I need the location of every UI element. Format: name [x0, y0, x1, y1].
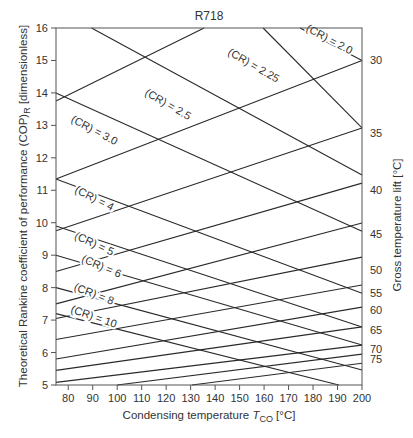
x-tick-label: 190	[328, 392, 346, 404]
y2-tick-label: 40	[370, 184, 382, 196]
y-tick-label: 12	[36, 152, 48, 164]
y-tick-label: 16	[36, 22, 48, 34]
x-tick-label: 100	[108, 392, 126, 404]
y-tick-label: 10	[36, 217, 48, 229]
x-tick-label: 120	[157, 392, 175, 404]
y2-axis: 30354045505560657075	[370, 54, 382, 365]
y2-tick-label: 75	[370, 353, 382, 365]
y2-tick-label: 55	[370, 287, 382, 299]
x-tick-label: 110	[133, 392, 151, 404]
compression-ratio-label: (CR) = 2.5	[143, 86, 193, 122]
y-axis: 5678910111213141516	[36, 22, 56, 391]
compression-ratio-label: (CR) = 2.0	[304, 22, 355, 57]
compression-ratio-label: (CR) = 6	[80, 252, 123, 279]
x-tick-label: 140	[206, 392, 224, 404]
chart: R718 (CR) = 2.0(CR) = 2.25(CR) = 2.5(CR)…	[0, 0, 413, 438]
y2-tick-label: 45	[370, 228, 382, 240]
compression-ratio-label: (CR) = 2.25	[226, 46, 282, 85]
x-tick-label: 80	[62, 392, 74, 404]
y2-axis-title: Gross temperature lift [°C]	[391, 158, 403, 291]
y2-tick-label: 65	[370, 324, 382, 336]
y-tick-label: 15	[36, 54, 48, 66]
y2-tick-label: 35	[370, 127, 382, 139]
x-axis-title: Condensing temperature TCO [°C]	[123, 409, 296, 424]
x-tick-label: 200	[353, 392, 371, 404]
y-tick-label: 14	[36, 87, 48, 99]
y-tick-label: 9	[42, 249, 48, 261]
compression-ratio-line	[56, 314, 339, 385]
y-tick-label: 8	[42, 282, 48, 294]
x-tick-label: 90	[87, 392, 99, 404]
x-tick-label: 170	[279, 392, 297, 404]
y-axis-title: Theoretical Rankine coefficient of perfo…	[17, 25, 32, 387]
y2-tick-label: 60	[370, 304, 382, 316]
plot-lines: (CR) = 2.0(CR) = 2.25(CR) = 2.5(CR) = 3.…	[56, 22, 362, 385]
chart-title: R718	[195, 9, 224, 23]
y-tick-label: 6	[42, 347, 48, 359]
compression-ratio-line	[91, 28, 362, 175]
compression-ratio-label: (CR) = 4	[73, 183, 116, 213]
y-tick-label: 7	[42, 314, 48, 326]
compression-ratio-line	[56, 93, 362, 231]
temperature-lift-line	[117, 354, 362, 385]
y2-tick-label: 50	[370, 264, 382, 276]
y-tick-label: 5	[42, 379, 48, 391]
x-tick-label: 160	[255, 392, 273, 404]
x-axis: 8090100110120130140150160170180190200	[62, 385, 371, 404]
y-tick-label: 11	[37, 184, 48, 196]
temperature-lift-line	[192, 363, 362, 385]
compression-ratio-label: (CR) = 8	[72, 281, 115, 307]
temperature-lift-line	[56, 128, 362, 231]
temperature-lift-line	[56, 28, 204, 101]
y2-tick-label: 30	[370, 54, 382, 66]
x-tick-label: 150	[230, 392, 248, 404]
compression-ratio-label: (CR) = 5	[73, 229, 116, 258]
x-tick-label: 130	[181, 392, 199, 404]
y-tick-label: 13	[36, 119, 48, 131]
x-tick-label: 180	[304, 392, 322, 404]
